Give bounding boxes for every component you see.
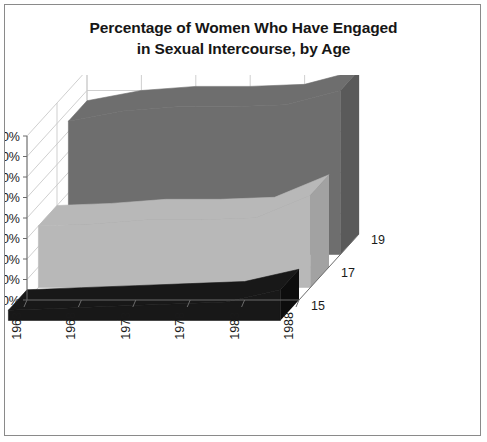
y-axis-label: 30% — [5, 232, 20, 246]
x-axis-label: 1968 — [64, 312, 78, 340]
y-axis-label: 70% — [5, 150, 20, 164]
z-axis-label: 19 — [371, 233, 385, 247]
chart-plot-area: 0%10%20%30%40%50%60%70%80%19631968197319… — [5, 75, 482, 435]
y-axis-label: 10% — [5, 273, 20, 287]
chart-title: Percentage of Women Who Have Engaged in … — [5, 17, 482, 59]
chart-title-line-1: Percentage of Women Who Have Engaged — [5, 17, 482, 38]
y-axis-label: 20% — [5, 253, 20, 267]
series-layer — [8, 75, 359, 320]
y-axis-label: 50% — [5, 191, 20, 205]
z-axis-label: 17 — [341, 266, 355, 280]
x-axis-label: 1983 — [228, 312, 242, 340]
y-axis-label: 60% — [5, 171, 20, 185]
series-endcap-19 — [340, 75, 359, 254]
z-axis-label: 15 — [311, 299, 325, 313]
x-axis-label: 1973 — [119, 312, 133, 340]
x-axis-label: 1988 — [282, 312, 296, 340]
chart-svg: 0%10%20%30%40%50%60%70%80%19631968197319… — [5, 75, 482, 435]
x-axis-label: 1963 — [10, 312, 24, 340]
y-axis-label: 80% — [5, 130, 20, 144]
y-axis-label: 0% — [5, 294, 20, 308]
chart-title-line-2: in Sexual Intercourse, by Age — [5, 38, 482, 59]
chart-frame: Percentage of Women Who Have Engaged in … — [4, 4, 481, 436]
y-axis-label: 40% — [5, 212, 20, 226]
x-axis-label: 1978 — [173, 312, 187, 340]
